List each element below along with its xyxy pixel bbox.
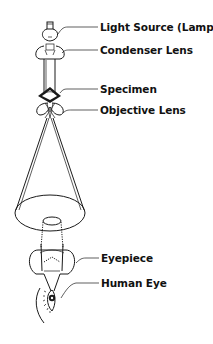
label-condenser-lens: Condenser Lens: [100, 44, 193, 56]
light-tube: [44, 59, 55, 92]
label-objective-lens: Objective Lens: [100, 104, 186, 116]
specimen-slide-icon: [38, 87, 61, 103]
label-human-eye: Human Eye: [101, 277, 167, 289]
microscope-diagram: Light Source (Lamp) Condenser Lens Speci…: [0, 0, 213, 344]
condenser-lens-icon: [36, 44, 64, 59]
leader-line-condenser: [62, 50, 98, 53]
rays-to-eye: [44, 274, 60, 291]
label-specimen: Specimen: [100, 83, 157, 95]
virtual-image-column: [41, 217, 63, 248]
lamp-icon: [42, 22, 57, 41]
light-cone: [15, 118, 85, 231]
label-eyepiece: Eyepiece: [101, 252, 153, 264]
human-eye-icon: [36, 288, 55, 323]
label-light-source: Light Source (Lamp): [100, 21, 213, 33]
objective-lens-icon: [37, 103, 64, 118]
leader-line-human-eye: [61, 283, 99, 298]
leader-line-objective: [63, 110, 98, 113]
leader-line-specimen: [60, 89, 98, 93]
eyepiece-icon: [29, 244, 74, 274]
leader-line-light-source: [58, 27, 98, 34]
leader-line-eyepiece: [76, 258, 99, 263]
